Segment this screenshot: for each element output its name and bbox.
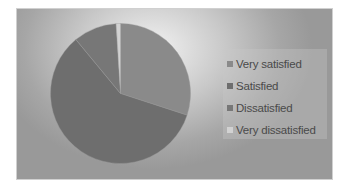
legend-item-satisfied: Satisfied bbox=[223, 75, 327, 97]
legend-label: Satisfied bbox=[236, 80, 278, 92]
legend-swatch-icon bbox=[227, 61, 233, 67]
chart-area: Very satisfied Satisfied Dissatisfied Ve… bbox=[16, 8, 333, 180]
pie-svg bbox=[49, 22, 192, 165]
legend-item-dissatisfied: Dissatisfied bbox=[223, 97, 327, 119]
legend-swatch-icon bbox=[227, 127, 233, 133]
legend-item-very-dissatisfied: Very dissatisfied bbox=[223, 119, 327, 141]
legend-label: Very satisfied bbox=[236, 58, 302, 70]
pie-chart bbox=[49, 22, 192, 165]
chart-legend: Very satisfied Satisfied Dissatisfied Ve… bbox=[223, 49, 327, 139]
legend-swatch-icon bbox=[227, 105, 233, 111]
legend-swatch-icon bbox=[227, 83, 233, 89]
legend-label: Dissatisfied bbox=[236, 102, 292, 114]
legend-item-very-satisfied: Very satisfied bbox=[223, 53, 327, 75]
legend-label: Very dissatisfied bbox=[236, 124, 316, 136]
